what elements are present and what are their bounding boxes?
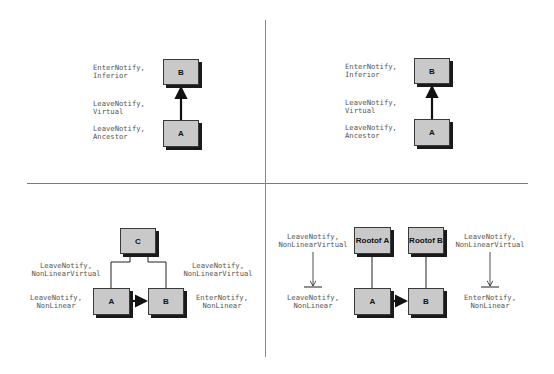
box-b: B: [148, 288, 184, 315]
box-root-of-b: Rootof B: [408, 227, 444, 254]
box-b: B: [414, 58, 450, 84]
event-label: LeaveNotify,Ancestor: [93, 125, 145, 141]
event-label: LeaveNotify,NonLinear: [283, 294, 343, 310]
event-label: EnterNotify,Inferior: [93, 64, 145, 80]
box-a: A: [163, 120, 199, 147]
box-c: C: [120, 228, 156, 254]
event-label: LeaveNotify,NonLinearVirtual: [450, 233, 530, 249]
event-label: LeaveNotify,NonLinearVirtual: [26, 262, 106, 278]
event-label: LeaveNotify,NonLinear: [26, 294, 86, 310]
box-a: A: [414, 119, 450, 146]
box-b: B: [408, 288, 444, 315]
box-root-of-a: Rootof A: [354, 227, 391, 254]
connector-lines: [0, 0, 554, 374]
box-b: B: [163, 59, 199, 85]
box-a: A: [93, 288, 130, 315]
event-label: EnterNotify,NonLinear: [460, 294, 520, 310]
event-label: EnterNotify,NonLinear: [192, 294, 252, 310]
event-label: LeaveNotify,Virtual: [93, 100, 145, 116]
event-label: LeaveNotify,NonLinearVirtual: [178, 262, 258, 278]
event-label: EnterNotify,Inferior: [345, 63, 397, 79]
box-a: A: [354, 288, 391, 315]
event-label: LeaveNotify,NonLinearVirtual: [273, 233, 353, 249]
event-label: LeaveNotify,Ancestor: [345, 124, 397, 140]
event-label: LeaveNotify,Virtual: [345, 99, 397, 115]
